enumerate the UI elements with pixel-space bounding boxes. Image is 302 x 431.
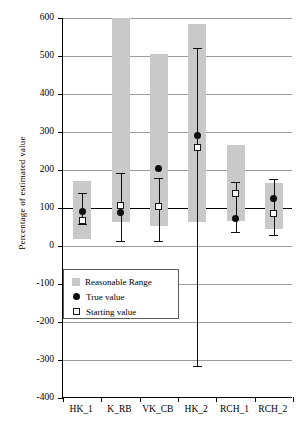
- chart-legend: Reasonable RangeTrue valueStarting value: [63, 269, 179, 319]
- error-cap-lower-VK_CB: [154, 241, 163, 242]
- y-tick-mark-0: [58, 246, 63, 247]
- y-tick-label-300: 300: [8, 127, 54, 137]
- true-value-marker-HK_2: [194, 132, 201, 139]
- legend-label-starting-value: Starting value: [86, 307, 136, 317]
- gridline-200: [63, 170, 292, 171]
- y-tick-mark--200: [58, 322, 63, 323]
- starting-value-marker-HK_2: [194, 144, 201, 151]
- legend-swatch-true-value-icon: [73, 293, 80, 300]
- legend-item-reasonable-range: Reasonable Range: [72, 274, 178, 289]
- y-tick-mark-200: [58, 170, 63, 171]
- starting-value-marker-RCH_2: [270, 210, 277, 217]
- y-tick-label-0: 0: [8, 241, 54, 251]
- error-cap-upper-HK_1: [78, 193, 87, 194]
- gridline-400: [63, 94, 292, 95]
- error-cap-lower-K_RB: [116, 241, 125, 242]
- y-tick-label-200: 200: [8, 165, 54, 175]
- x-tick-mark-0: [63, 397, 64, 402]
- x-tick-mark-1: [101, 397, 102, 402]
- y-tick-label--400: -400: [8, 393, 54, 403]
- error-cap-lower-RCH_1: [231, 232, 240, 233]
- gridline--300: [63, 360, 292, 361]
- y-tick-label-100: 100: [8, 203, 54, 213]
- legend-item-true-value: True value: [72, 289, 178, 304]
- legend-swatch-reasonable-range-icon: [72, 278, 80, 286]
- error-cap-upper-RCH_2: [269, 179, 278, 180]
- plot-area: [62, 18, 292, 398]
- chart-figure: Percentage of estimated value 6005004003…: [0, 0, 302, 431]
- true-value-marker-K_RB: [117, 209, 124, 216]
- true-value-marker-VK_CB: [155, 165, 162, 172]
- error-cap-upper-VK_CB: [154, 178, 163, 179]
- y-tick-label-600: 600: [8, 13, 54, 23]
- x-tick-mark-2: [140, 397, 141, 402]
- starting-value-marker-VK_CB: [155, 203, 162, 210]
- error-cap-upper-RCH_1: [231, 182, 240, 183]
- gridline-300: [63, 132, 292, 133]
- legend-label-true-value: True value: [86, 292, 124, 302]
- gridline--200: [63, 322, 292, 323]
- gridline-0: [63, 246, 292, 247]
- gridline-500: [63, 56, 292, 57]
- error-cap-upper-HK_2: [193, 48, 202, 49]
- y-tick-mark--300: [58, 360, 63, 361]
- starting-value-marker-HK_1: [79, 217, 86, 224]
- x-tick-mark-6: [293, 397, 294, 402]
- y-tick-mark-600: [58, 18, 63, 19]
- y-tick-label-500: 500: [8, 51, 54, 61]
- error-cap-lower-HK_2: [193, 366, 202, 367]
- y-tick-label--100: -100: [8, 279, 54, 289]
- y-tick-label--200: -200: [8, 317, 54, 327]
- gridline-600: [63, 18, 292, 19]
- x-tick-label-RCH_2: RCH_2: [246, 404, 300, 414]
- error-cap-lower-HK_1: [78, 224, 87, 225]
- y-tick-label--300: -300: [8, 355, 54, 365]
- x-tick-mark-4: [216, 397, 217, 402]
- error-cap-upper-K_RB: [116, 173, 125, 174]
- legend-item-starting-value: Starting value: [72, 304, 178, 319]
- y-tick-label-400: 400: [8, 89, 54, 99]
- legend-label-reasonable-range: Reasonable Range: [85, 277, 152, 287]
- error-bar-RCH_2: [274, 179, 275, 234]
- y-tick-mark-400: [58, 94, 63, 95]
- starting-value-marker-RCH_1: [232, 190, 239, 197]
- x-tick-mark-5: [255, 397, 256, 402]
- true-value-marker-HK_1: [79, 208, 86, 215]
- error-bar-HK_2: [197, 48, 198, 365]
- x-tick-mark-3: [178, 397, 179, 402]
- legend-swatch-starting-value-icon: [73, 308, 80, 315]
- y-tick-mark-300: [58, 132, 63, 133]
- error-cap-lower-RCH_2: [269, 235, 278, 236]
- reference-line-100: [63, 208, 292, 209]
- y-tick-mark-500: [58, 56, 63, 57]
